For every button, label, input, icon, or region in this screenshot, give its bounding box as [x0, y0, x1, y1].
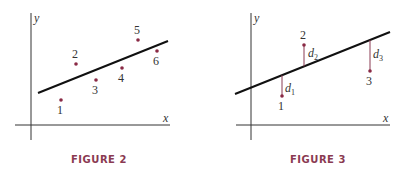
point-label-3: 3 — [92, 83, 98, 97]
point-label-5: 5 — [134, 23, 140, 37]
x-axis-label: x — [162, 111, 169, 125]
residual-label-d3: d3 — [373, 47, 383, 63]
figures-canvas: y x 1 2 3 4 5 6 y x 1 2 3 d1 d2 d3 — [0, 0, 412, 173]
y-axis-label: y — [33, 11, 40, 25]
x-axis-label: x — [382, 111, 389, 125]
data-point-3 — [368, 69, 372, 73]
figure-3-caption: FIGURE 3 — [290, 154, 346, 165]
residual-label-d1: d1 — [285, 81, 295, 97]
regression-line — [38, 41, 168, 93]
point-label-1: 1 — [278, 99, 284, 113]
point-label-2: 2 — [300, 28, 306, 42]
point-label-1: 1 — [57, 103, 63, 117]
data-point-5 — [136, 38, 140, 42]
figure-2: y x 1 2 3 4 5 6 — [15, 11, 170, 140]
figure-3: y x 1 2 3 d1 d2 d3 — [235, 11, 390, 140]
residual-label-d2: d2 — [308, 46, 318, 62]
data-point-2 — [74, 62, 78, 66]
data-point-3 — [94, 78, 98, 82]
data-point-1 — [59, 98, 63, 102]
point-label-3: 3 — [366, 74, 372, 88]
point-label-6: 6 — [153, 54, 159, 68]
figure-2-caption: FIGURE 2 — [71, 154, 127, 165]
data-point-4 — [120, 66, 124, 70]
data-point-2 — [302, 43, 306, 47]
data-point-1 — [280, 94, 284, 98]
point-label-2: 2 — [72, 47, 78, 61]
data-point-6 — [155, 49, 159, 53]
point-label-4: 4 — [118, 71, 124, 85]
y-axis-label: y — [253, 11, 260, 25]
